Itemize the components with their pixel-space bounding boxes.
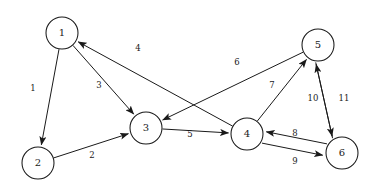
node-label-4: 4	[244, 128, 250, 139]
edge-labels-layer: 1325467891011	[30, 43, 349, 166]
edge-weight-label-3-4: 5	[187, 129, 192, 139]
node-4[interactable]: 4	[231, 118, 263, 150]
edge-5-to-3	[163, 52, 303, 120]
node-label-5: 5	[315, 39, 321, 50]
graph-diagram-canvas: 123456 1325467891011	[0, 0, 372, 189]
edge-weight-label-1-3: 3	[96, 80, 101, 90]
node-3[interactable]: 3	[130, 112, 162, 144]
edge-weight-label-5-6: 10	[308, 93, 319, 103]
node-label-2: 2	[35, 157, 41, 168]
edge-4-to-6	[262, 143, 323, 155]
edge-3-to-4	[162, 129, 228, 133]
node-6[interactable]: 6	[326, 137, 358, 169]
edge-6-to-5	[316, 64, 332, 138]
edge-weight-label-5-3: 6	[234, 57, 239, 67]
edge-weight-label-6-4: 8	[292, 128, 297, 138]
edge-weight-label-4-5: 7	[269, 80, 274, 90]
node-label-3: 3	[143, 122, 149, 133]
edge-4-to-5	[257, 59, 306, 121]
edge-weight-label-4-1: 4	[135, 43, 140, 53]
node-label-1: 1	[59, 27, 65, 38]
node-2[interactable]: 2	[22, 147, 54, 179]
graph-svg: 123456 1325467891011	[0, 0, 372, 189]
node-5[interactable]: 5	[302, 29, 334, 61]
node-1[interactable]: 1	[46, 17, 78, 49]
edge-weight-label-2-3: 2	[89, 150, 94, 160]
edge-1-to-2	[41, 49, 59, 145]
edge-weight-label-4-6: 9	[292, 156, 297, 166]
edge-weight-label-6-5: 11	[339, 93, 350, 103]
edge-weight-label-1-2: 1	[30, 83, 35, 93]
node-label-6: 6	[339, 147, 345, 158]
edges-layer	[41, 42, 332, 158]
